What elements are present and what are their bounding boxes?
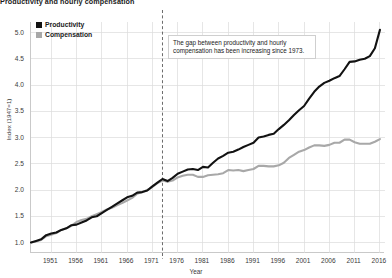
legend-item-productivity: Productivity [36,21,92,29]
y-tick-label: 1.0 [0,239,24,246]
legend-swatch-icon [36,22,42,28]
y-axis-label: Index (1947=1) [5,90,12,150]
y-tick-label: 2.5 [0,160,24,167]
chart-container: Productivity and hourly compensation 1.0… [0,0,392,278]
legend-item-compensation: Compensation [36,31,92,39]
x-axis-label: Year [0,268,392,275]
y-tick-label: 5.0 [0,29,24,36]
y-tick-label: 2.0 [0,186,24,193]
chart-legend: Productivity Compensation [36,21,92,41]
chart-annotation: The gap between productivity and hourly … [168,35,316,59]
y-tick-label: 1.5 [0,212,24,219]
legend-label: Productivity [45,21,84,29]
legend-swatch-icon [36,32,42,38]
y-tick-label: 4.5 [0,55,24,62]
y-tick-label: 4.0 [0,81,24,88]
legend-label: Compensation [45,31,92,39]
x-tick-label: 2016 [359,257,392,264]
chart-title: Productivity and hourly compensation [0,0,392,6]
